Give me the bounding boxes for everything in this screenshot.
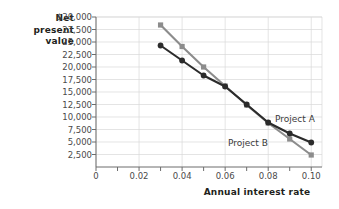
data-point-marker (265, 120, 271, 126)
x-axis-title: Annual interest rate (182, 187, 332, 197)
data-point-marker (287, 136, 292, 141)
series-label-project-a: Project A (275, 114, 315, 124)
data-point-marker (309, 152, 314, 157)
series-label-project-b: Project B (228, 138, 268, 148)
data-point-marker (201, 73, 207, 79)
data-point-marker (308, 140, 314, 146)
data-point-marker (180, 44, 185, 49)
data-point-marker (201, 64, 206, 69)
data-point-marker (222, 84, 228, 90)
data-point-marker (244, 102, 250, 108)
data-point-marker (287, 131, 293, 137)
data-point-marker (158, 22, 163, 27)
data-point-marker (158, 43, 164, 49)
npv-line-chart: Net present value $30,00027,50025,00022,… (0, 0, 339, 209)
data-point-marker (179, 58, 185, 64)
plot-area (0, 0, 339, 209)
